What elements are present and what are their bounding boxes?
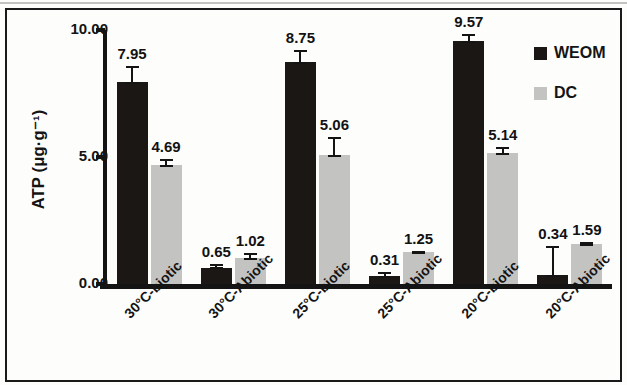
bar-value-label: 1.59: [564, 221, 610, 238]
error-cap-upper: [378, 272, 391, 274]
error-cap-lower: [294, 62, 307, 64]
chart-legend: WEOM DC: [534, 44, 606, 124]
error-bar: [552, 246, 554, 275]
error-cap-lower: [160, 165, 173, 167]
legend-item-dc: DC: [534, 84, 606, 102]
error-bar: [131, 66, 133, 82]
bar-value-label: 4.69: [143, 138, 189, 155]
bar-weom: [285, 62, 316, 284]
error-cap-upper: [210, 264, 223, 266]
legend-swatch-weom: [534, 47, 547, 60]
legend-item-weom: WEOM: [534, 44, 606, 62]
bar-weom: [117, 82, 148, 284]
error-cap-upper: [546, 246, 559, 248]
error-cap-lower: [496, 153, 509, 155]
bar-chart-figure: ATP (μg·g⁻¹) 0.005.0010.00 7.954.690.651…: [0, 0, 627, 385]
error-cap-lower: [546, 275, 559, 277]
error-cap-lower: [412, 252, 425, 254]
error-cap-upper: [160, 159, 173, 161]
bar-weom: [201, 268, 232, 285]
bar-value-label: 9.57: [446, 13, 492, 30]
bar-weom: [453, 41, 484, 284]
bar-value-label: 8.75: [277, 29, 323, 46]
bar-value-label: 0.31: [362, 251, 408, 268]
bar-value-label: 1.02: [227, 232, 273, 249]
bar-value-label: 5.06: [311, 116, 357, 133]
x-axis-line: [100, 284, 612, 289]
error-cap-upper: [496, 147, 509, 149]
legend-label-dc: DC: [554, 84, 577, 102]
error-cap-upper: [244, 253, 257, 255]
legend-swatch-dc: [534, 87, 547, 100]
error-cap-lower: [580, 244, 593, 246]
y-axis-title: ATP (μg·g⁻¹): [29, 60, 48, 260]
error-cap-upper: [126, 66, 139, 68]
error-bar: [333, 137, 335, 155]
error-cap-lower: [328, 155, 341, 157]
error-cap-upper: [294, 50, 307, 52]
error-cap-lower: [378, 276, 391, 278]
bar-value-label: 1.25: [396, 230, 442, 247]
bar-value-label: 7.95: [109, 45, 155, 62]
y-axis-tick-label: 10.00: [46, 20, 108, 37]
scan-edge-line: [0, 2, 627, 4]
error-cap-lower: [126, 82, 139, 84]
y-axis-tick-label: 0.00: [46, 274, 108, 291]
bar-value-label: 5.14: [480, 126, 526, 143]
error-cap-lower: [210, 267, 223, 269]
y-axis-tick-label: 5.00: [46, 147, 108, 164]
error-cap-lower: [462, 41, 475, 43]
error-cap-upper: [328, 137, 341, 139]
legend-label-weom: WEOM: [554, 44, 606, 62]
error-cap-upper: [462, 34, 475, 36]
